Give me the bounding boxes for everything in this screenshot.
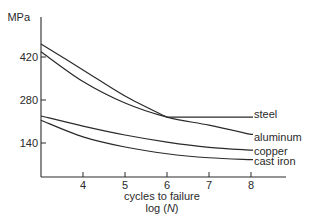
series-label-cast-iron: cast iron	[254, 155, 296, 167]
series-label-steel: steel	[254, 108, 277, 120]
y-ticks: 140280420	[20, 51, 46, 149]
x-tick-label: 7	[206, 179, 212, 191]
series-labels: steelaluminumcoppercast iron	[254, 108, 302, 167]
x-tick-label: 4	[80, 179, 86, 191]
y-axis-label: MPa	[7, 11, 31, 23]
series-line-cast-iron	[41, 120, 253, 159]
fatigue-chart: MPa 140280420 45678 steelaluminumcopperc…	[0, 0, 318, 224]
y-tick-label: 280	[20, 94, 38, 106]
series-lines	[41, 44, 253, 159]
x-axis-label: cycles to failure	[124, 190, 200, 202]
y-tick-label: 420	[20, 51, 38, 63]
series-line-steel	[41, 44, 253, 117]
y-tick-label: 140	[20, 137, 38, 149]
x-ticks: 45678	[80, 172, 254, 191]
series-label-aluminum: aluminum	[254, 131, 302, 143]
x-axis-label-line2: log (N)	[145, 202, 178, 214]
x-tick-label: 8	[248, 179, 254, 191]
